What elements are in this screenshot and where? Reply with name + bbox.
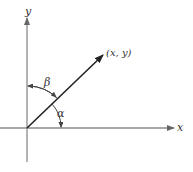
vector-arrow bbox=[27, 55, 103, 128]
beta-label: β bbox=[43, 76, 50, 89]
beta-arc bbox=[28, 86, 57, 98]
alpha-label: α bbox=[57, 107, 65, 120]
y-axis-label: y bbox=[24, 5, 32, 18]
beta-arc-start bbox=[30, 86, 56, 97]
vector-diagram: y x (x, y) β α bbox=[0, 0, 193, 172]
vector-point-label: (x, y) bbox=[106, 47, 132, 58]
x-axis-label: x bbox=[177, 121, 184, 134]
